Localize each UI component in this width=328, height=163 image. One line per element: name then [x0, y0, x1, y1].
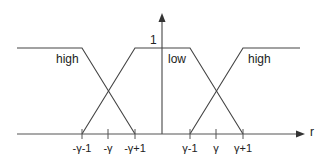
low-label: low	[168, 52, 186, 66]
left-high-label: high	[56, 52, 79, 66]
tick-label: -γ	[103, 142, 113, 154]
tick-label: -γ+1	[124, 142, 146, 154]
tick-label: γ+1	[234, 142, 252, 154]
membership-function-diagram: r 1 high low high -γ-1 -γ -γ+1 γ-1 γ γ+1	[0, 0, 328, 163]
y-axis: 1	[150, 13, 166, 134]
tick-label: γ	[213, 142, 219, 154]
tick-labels: -γ-1 -γ -γ+1 γ-1 γ γ+1	[73, 142, 253, 154]
right-high-curve	[190, 48, 300, 134]
tick-label: γ-1	[182, 142, 197, 154]
x-axis: r	[17, 125, 314, 139]
y-axis-arrow-icon	[159, 13, 166, 22]
right-high-label: high	[248, 52, 271, 66]
x-axis-arrow-icon	[296, 131, 305, 138]
x-axis-label: r	[310, 125, 314, 139]
tick-label: -γ-1	[73, 142, 92, 154]
y-max-label: 1	[150, 33, 157, 47]
